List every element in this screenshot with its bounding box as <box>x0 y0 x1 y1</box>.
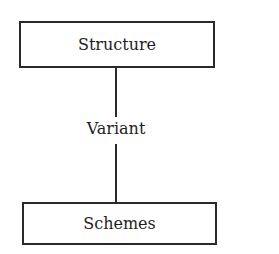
node-structure: Structure <box>19 21 215 68</box>
node-structure-label: Structure <box>78 35 156 54</box>
node-schemes: Schemes <box>22 202 217 245</box>
node-schemes-label: Schemes <box>83 214 156 233</box>
edge-line-upper <box>115 67 117 117</box>
edge-label-variant: Variant <box>66 119 166 138</box>
edge-line-lower <box>115 144 117 203</box>
